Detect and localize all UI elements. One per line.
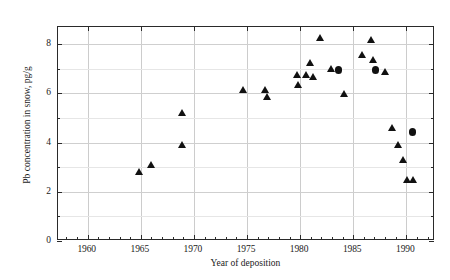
x-tick-minor	[98, 237, 99, 240]
x-tick-major	[300, 235, 301, 240]
x-tick-minor	[151, 237, 152, 240]
y-tick-major	[57, 241, 62, 242]
y-tick-major-right	[429, 192, 434, 193]
x-tick-label: 1965	[120, 244, 160, 255]
data-point-triangle	[135, 168, 143, 175]
x-tick-minor	[268, 237, 269, 240]
y-gridline	[58, 44, 433, 45]
y-gridline-minor	[58, 118, 433, 119]
data-point-triangle	[340, 90, 348, 97]
y-tick-major	[57, 93, 62, 94]
x-tick-minor	[385, 237, 386, 240]
data-point-triangle	[327, 65, 335, 72]
y-tick-minor	[57, 167, 60, 168]
data-point-triangle	[263, 93, 271, 100]
data-point-circle	[409, 128, 417, 136]
data-point-triangle	[367, 36, 375, 43]
x-tick-major-top	[88, 26, 89, 31]
data-point-circle	[372, 66, 380, 74]
x-tick-minor	[417, 237, 418, 240]
x-gridline	[353, 27, 354, 239]
y-tick-label: 6	[29, 87, 51, 97]
x-axis-title: Year of deposition	[57, 258, 434, 268]
y-tick-minor-right	[431, 118, 434, 119]
plot-area	[57, 26, 434, 240]
y-tick-minor	[57, 69, 60, 70]
x-tick-minor	[279, 237, 280, 240]
y-tick-label: 8	[29, 38, 51, 48]
x-tick-minor	[396, 237, 397, 240]
x-tick-minor	[120, 237, 121, 240]
x-tick-minor	[162, 237, 163, 240]
x-tick-major-top	[141, 26, 142, 31]
x-gridline	[88, 27, 89, 239]
data-point-triangle	[178, 109, 186, 116]
x-tick-major-top	[247, 26, 248, 31]
data-point-triangle	[309, 73, 317, 80]
y-tick-major-right	[429, 143, 434, 144]
y-gridline	[58, 192, 433, 193]
x-tick-minor	[66, 237, 67, 240]
x-gridline	[141, 27, 142, 239]
x-gridline	[247, 27, 248, 239]
y-tick-major-right	[429, 93, 434, 94]
data-point-triangle	[147, 161, 155, 168]
y-gridline	[58, 93, 433, 94]
x-tick-major-top	[353, 26, 354, 31]
y-tick-minor-right	[431, 167, 434, 168]
data-point-triangle	[369, 56, 377, 63]
data-point-circle	[335, 66, 343, 74]
x-tick-major	[406, 235, 407, 240]
x-gridline	[406, 27, 407, 239]
data-point-triangle	[409, 176, 417, 183]
x-gridline	[300, 27, 301, 239]
y-tick-minor-right	[431, 69, 434, 70]
x-tick-minor	[130, 237, 131, 240]
x-tick-minor	[343, 237, 344, 240]
data-point-triangle	[294, 81, 302, 88]
x-tick-major	[194, 235, 195, 240]
data-point-triangle	[381, 68, 389, 75]
data-point-triangle	[178, 141, 186, 148]
x-tick-label: 1960	[67, 244, 107, 255]
x-tick-label: 1985	[332, 244, 372, 255]
data-point-triangle	[293, 71, 301, 78]
x-tick-minor	[173, 237, 174, 240]
y-tick-major	[57, 44, 62, 45]
data-point-triangle	[388, 124, 396, 131]
x-tick-minor	[290, 237, 291, 240]
y-tick-minor	[57, 216, 60, 217]
x-tick-minor	[226, 237, 227, 240]
y-gridline	[58, 143, 433, 144]
x-tick-minor	[374, 237, 375, 240]
y-tick-label: 0	[29, 235, 51, 245]
x-tick-major	[141, 235, 142, 240]
data-point-triangle	[394, 141, 402, 148]
data-point-triangle	[316, 34, 324, 41]
x-tick-minor	[236, 237, 237, 240]
x-tick-minor	[428, 237, 429, 240]
data-point-triangle	[306, 59, 314, 66]
x-tick-minor	[311, 237, 312, 240]
data-point-triangle	[261, 86, 269, 93]
x-tick-minor	[205, 237, 206, 240]
x-tick-major-top	[194, 26, 195, 31]
data-point-triangle	[239, 86, 247, 93]
data-point-triangle	[399, 156, 407, 163]
x-tick-minor	[364, 237, 365, 240]
x-tick-label: 1990	[385, 244, 425, 255]
x-tick-minor	[332, 237, 333, 240]
y-gridline-minor	[58, 216, 433, 217]
y-gridline-minor	[58, 167, 433, 168]
y-tick-minor-right	[431, 216, 434, 217]
x-tick-label: 1975	[226, 244, 266, 255]
x-tick-major	[88, 235, 89, 240]
y-tick-major	[57, 143, 62, 144]
y-tick-major-right	[429, 44, 434, 45]
x-tick-label: 1970	[173, 244, 213, 255]
y-tick-major	[57, 192, 62, 193]
x-gridline	[194, 27, 195, 239]
x-tick-minor	[215, 237, 216, 240]
x-tick-major	[353, 235, 354, 240]
y-tick-major-right	[429, 241, 434, 242]
